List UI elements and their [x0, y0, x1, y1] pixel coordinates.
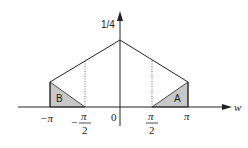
tick-neg-half-pi-numerator: π [81, 110, 87, 122]
region-a-triangle [152, 82, 188, 107]
tick-neg-half-pi-denominator: 2 [82, 124, 88, 136]
region-b-label: B [56, 93, 63, 104]
tick-pi: π [184, 110, 190, 122]
tick-half-pi-numerator: π [148, 110, 154, 122]
y-axis-arrow-icon [117, 11, 123, 21]
origin-label: 0 [111, 111, 117, 123]
spectrum-diagram: 1/4 w 0 B A −π − π 2 π 2 π [0, 0, 248, 148]
tick-neg-half-pi-sign: − [71, 116, 77, 128]
x-axis-arrow-icon [222, 104, 232, 110]
tick-half-pi-denominator: 2 [149, 124, 155, 136]
region-a-label: A [174, 93, 181, 104]
tick-neg-pi: −π [40, 112, 53, 124]
y-axis-value-label: 1/4 [101, 19, 115, 30]
x-axis-label: w [234, 101, 242, 113]
